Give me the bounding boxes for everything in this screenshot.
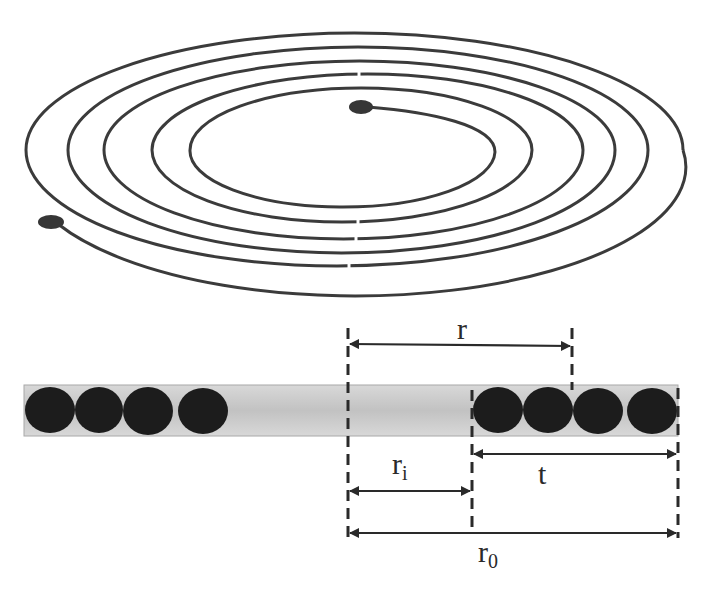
- conductor-right-4: [627, 388, 677, 434]
- conductor-left-2: [75, 387, 123, 433]
- label-ri: ri: [392, 447, 408, 484]
- spiral-turn-3-bottom: [104, 150, 583, 239]
- dimension-arrows: [350, 344, 676, 533]
- label-ri-sub: i: [402, 462, 408, 484]
- label-r0: r0: [478, 535, 498, 572]
- spiral-turn-1-top: [190, 88, 532, 150]
- label-t: t: [538, 457, 547, 490]
- spiral-coil: [26, 33, 686, 296]
- spiral-coil-figure: r t ri r0: [0, 0, 705, 590]
- outer-terminal-dot: [38, 215, 64, 229]
- label-r0-base: r: [478, 535, 488, 568]
- label-ri-base: r: [392, 447, 402, 480]
- spiral-breaks: [349, 70, 359, 271]
- spiral-inner-lead: [368, 107, 495, 152]
- conductor-right-1: [473, 387, 523, 433]
- spiral-turn-1-bottom: [190, 150, 495, 207]
- conductor-right-3: [573, 388, 623, 434]
- inner-terminal-dot: [349, 100, 373, 114]
- conductor-left-1: [25, 387, 75, 433]
- label-r: r: [457, 312, 467, 345]
- spiral-turn-5-top: [26, 33, 683, 150]
- label-r0-sub: 0: [488, 550, 498, 572]
- spiral-turn-2-bottom: [152, 150, 532, 222]
- conductor-left-3: [123, 387, 173, 435]
- cross-section: r t ri r0: [24, 312, 678, 572]
- conductor-right-2: [523, 387, 573, 433]
- conductor-left-4: [178, 388, 228, 434]
